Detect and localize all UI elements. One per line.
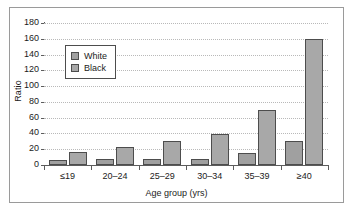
y-tick-label: 60 [9, 113, 39, 122]
y-tick-label: 100 [9, 81, 39, 90]
legend-label-black: Black [84, 64, 106, 73]
y-tick-label: 40 [9, 128, 39, 137]
y-tick-mark [41, 70, 44, 71]
x-tick-mark [91, 166, 92, 170]
y-tick-mark [41, 23, 44, 24]
y-tick-label: 160 [9, 34, 39, 43]
y-tick-mark [41, 102, 44, 103]
y-tick-mark [41, 118, 44, 119]
y-tick-mark [41, 133, 44, 134]
x-tick-mark [186, 166, 187, 170]
bar-white-2 [143, 159, 161, 165]
y-tick-label: 120 [9, 65, 39, 74]
x-tick-mark [328, 166, 329, 170]
x-tick-mark [233, 166, 234, 170]
x-tick-label: ≥40 [274, 171, 334, 181]
chart-legend: White Black [65, 45, 116, 79]
x-tick-mark [281, 166, 282, 170]
bar-white-0 [49, 160, 67, 165]
y-tick-label: 180 [9, 18, 39, 27]
y-tick-mark [41, 55, 44, 56]
gridline [44, 102, 328, 104]
x-tick-mark [139, 166, 140, 170]
bar-black-0 [69, 152, 87, 165]
bar-black-5 [305, 39, 323, 165]
gridline [44, 86, 328, 88]
bar-black-1 [116, 147, 134, 165]
bar-black-4 [258, 110, 276, 165]
x-axis-title: Age group (yrs) [0, 188, 353, 198]
gridline [44, 133, 328, 135]
y-tick-mark [41, 86, 44, 87]
bar-black-3 [211, 134, 229, 165]
legend-item-black: Black [71, 62, 107, 74]
y-tick-label: 20 [9, 144, 39, 153]
y-tick-label: 140 [9, 50, 39, 59]
y-tick-mark [41, 39, 44, 40]
gridline [44, 23, 328, 25]
chart-figure: Ratio 180160140120100806040200 ≤1920–242… [0, 0, 353, 217]
legend-label-white: White [84, 52, 107, 61]
bar-black-2 [163, 141, 181, 165]
y-tick-label: 80 [9, 97, 39, 106]
x-tick-mark [44, 166, 45, 170]
legend-item-white: White [71, 50, 107, 62]
gridline [44, 118, 328, 120]
legend-swatch-black-icon [71, 64, 79, 72]
bar-white-1 [96, 159, 114, 165]
legend-swatch-white-icon [71, 52, 79, 60]
bar-white-3 [191, 159, 209, 165]
y-tick-mark [41, 149, 44, 150]
gridline [44, 39, 328, 41]
bar-white-4 [238, 153, 256, 165]
bar-white-5 [285, 141, 303, 165]
y-tick-label: 0 [9, 160, 39, 169]
